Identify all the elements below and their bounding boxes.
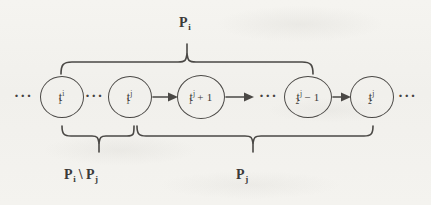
node-t1-i-label: t1i (59, 91, 65, 103)
ellipsis-leading: ··· (14, 89, 33, 104)
ellipsis-between-node1-node2: ··· (85, 89, 104, 104)
node-t1-i: t1i (40, 76, 84, 118)
node-t2-j-label: t2j (369, 91, 375, 103)
node-t2-j-minus-1: t2j− 1 (284, 76, 332, 118)
node-t1-j-plus-1: t1j+ 1 (177, 75, 225, 119)
node-t1-j-label: t1j (127, 91, 133, 103)
arrow-plus1-to-dots (226, 93, 254, 102)
brace-top-pi (61, 44, 313, 74)
ellipsis-trailing: ··· (398, 89, 417, 104)
node-t1-j-plus-1-label: t1j+ 1 (190, 91, 213, 103)
node-t2-j: t2j (350, 76, 394, 118)
arrow-t1j-to-plus1 (153, 93, 178, 102)
node-t2-j-minus-1-label: t2j− 1 (297, 91, 320, 103)
brace-bottom-pj (137, 126, 373, 152)
node-t1-j: t1j (108, 76, 152, 118)
figure-canvas: t1i t1j t1j+ 1 t2j− 1 t2j ··· ··· ··· ··… (0, 0, 431, 205)
arrow-minus1-to-t2j (333, 93, 351, 102)
label-pj: Pj (236, 168, 248, 182)
ellipsis-before-node4: ··· (259, 89, 278, 104)
label-pi-minus-pj: Pi\Pj (64, 168, 98, 182)
brace-bottom-pi-minus-pj (62, 126, 134, 152)
label-pi: Pi (179, 16, 191, 30)
